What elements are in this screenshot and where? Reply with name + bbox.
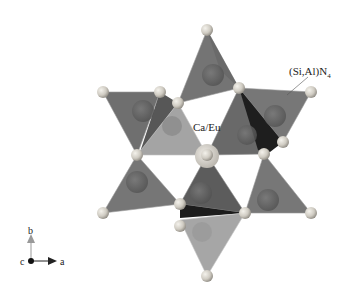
b-axis-label: b bbox=[28, 225, 33, 236]
axes-indicator: b c a bbox=[20, 225, 65, 267]
tetrahedron-label: (Si,Al)N4 bbox=[289, 65, 331, 80]
a-axis-arrow-icon bbox=[48, 257, 57, 265]
c-axis-label: c bbox=[20, 256, 25, 267]
crystal-structure-diagram: (Si,Al)N4 Ca/Eu b c a bbox=[0, 0, 346, 299]
c-axis-dot-icon bbox=[28, 258, 34, 264]
cation-label: Ca/Eu bbox=[193, 121, 221, 133]
a-axis-label: a bbox=[60, 256, 65, 267]
tetrahedron-bottom bbox=[180, 213, 245, 276]
